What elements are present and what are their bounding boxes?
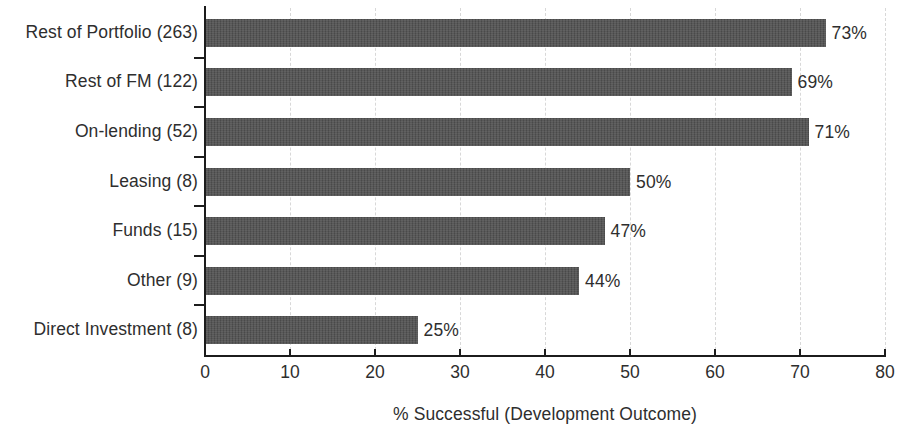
plot-area: 73%69%71%50%47%44%25%	[205, 8, 885, 355]
bar	[205, 19, 826, 47]
category-label: Direct Investment (8)	[0, 321, 198, 339]
x-axis-tick	[714, 349, 716, 357]
x-axis-tick	[289, 349, 291, 357]
bar	[205, 316, 418, 344]
bar	[205, 118, 809, 146]
bar-chart: Rest of Portfolio (263)Rest of FM (122)O…	[0, 0, 898, 440]
category-label: Rest of Portfolio (263)	[0, 24, 198, 42]
bar	[205, 168, 630, 196]
gridline	[630, 8, 632, 355]
bar-value-label: 25%	[424, 316, 460, 344]
bar-value-label: 47%	[611, 217, 647, 245]
bar-value-label: 44%	[585, 267, 621, 295]
y-axis-tick	[194, 304, 205, 306]
gridline	[800, 8, 802, 355]
y-axis-tick	[194, 106, 205, 108]
x-axis-tick-label: 0	[175, 362, 235, 382]
y-axis-tick	[194, 57, 205, 59]
y-axis-category-labels: Rest of Portfolio (263)Rest of FM (122)O…	[0, 8, 198, 355]
x-axis-tick	[799, 349, 801, 357]
x-axis-tick-label: 70	[770, 362, 830, 382]
bar	[205, 68, 792, 96]
category-label: Other (9)	[0, 272, 198, 290]
x-axis-tick-label: 20	[345, 362, 405, 382]
category-label: Rest of FM (122)	[0, 73, 198, 91]
y-axis-tick	[194, 205, 205, 207]
x-axis-tick-label: 40	[515, 362, 575, 382]
bar-value-label: 73%	[832, 19, 868, 47]
y-axis-tick	[194, 255, 205, 257]
y-axis-tick	[194, 156, 205, 158]
category-label: Leasing (8)	[0, 173, 198, 191]
bar-value-label: 50%	[636, 168, 672, 196]
bar-value-label: 69%	[798, 68, 834, 96]
x-axis-tick-label: 10	[260, 362, 320, 382]
gridline	[885, 8, 887, 355]
category-label: On-lending (52)	[0, 123, 198, 141]
x-axis-tick-label: 80	[855, 362, 898, 382]
x-axis-tick	[629, 349, 631, 357]
bar-value-label: 71%	[815, 118, 851, 146]
x-axis-tick	[374, 349, 376, 357]
x-axis-tick-label: 50	[600, 362, 660, 382]
x-axis-tick	[884, 349, 886, 357]
x-axis-tick-label: 60	[685, 362, 745, 382]
x-axis-tick-label: 30	[430, 362, 490, 382]
x-axis-tick	[204, 349, 206, 357]
bar	[205, 267, 579, 295]
x-axis-tick	[459, 349, 461, 357]
x-axis-tick	[544, 349, 546, 357]
bar	[205, 217, 605, 245]
category-label: Funds (15)	[0, 222, 198, 240]
x-axis-title: % Successful (Development Outcome)	[205, 404, 885, 425]
gridline	[715, 8, 717, 355]
